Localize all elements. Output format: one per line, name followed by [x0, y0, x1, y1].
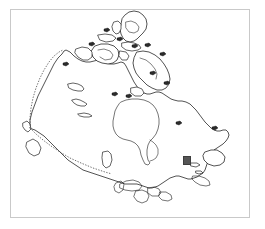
banks-island — [75, 47, 92, 60]
southampton-island — [131, 87, 144, 96]
mainland-canada — [30, 50, 229, 188]
ellesmere-island — [120, 11, 147, 42]
vancouver-island — [26, 139, 41, 156]
site-marker[interactable] — [183, 156, 191, 165]
prince-of-wales-island — [119, 51, 129, 60]
axel-heiberg-island — [112, 21, 121, 34]
canada-map-canvas[interactable] — [0, 0, 265, 229]
devon-island — [122, 42, 141, 51]
lake-winnipeg — [102, 151, 112, 168]
map-figure: Map of Canada Black outline map of Canad… — [0, 0, 265, 229]
melville-island — [98, 34, 116, 42]
